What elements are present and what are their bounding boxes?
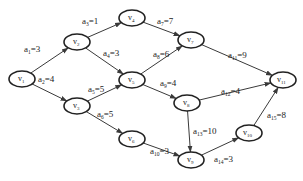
edge-v7-v11: a11=9 — [202, 45, 273, 76]
edge-label: a2=4 — [38, 74, 55, 85]
node-v9: v9 — [178, 152, 204, 168]
edge-label: a5=5 — [88, 84, 105, 95]
node-v7: v7 — [178, 32, 204, 48]
edge-label: a8=6 — [153, 49, 170, 60]
node-v6: v6 — [119, 131, 145, 147]
edge-arrow — [32, 84, 67, 101]
node-v1: v1 — [9, 71, 35, 87]
edge-v6-v9: a10=3 — [143, 143, 179, 157]
edge-v5-v7: a8=6 — [141, 46, 183, 74]
edge-label: a1=3 — [24, 44, 41, 55]
node-v8: v8 — [174, 95, 200, 111]
edge-v2-v4: a3=1 — [82, 16, 121, 37]
edge-v5-v8: a9=4 — [143, 78, 177, 99]
aoe-network-diagram: a1=3a2=4a3=1a4=3a5=5a6=5a7=7a8=6a9=4a10=… — [0, 0, 303, 181]
edge-v2-v5: a4=3 — [86, 48, 124, 74]
edges-layer: a1=3a2=4a3=1a4=3a5=5a6=5a7=7a8=6a9=4a10=… — [24, 16, 287, 165]
edge-v3-v6: a6=5 — [86, 109, 122, 133]
edge-v4-v7: a7=7 — [143, 16, 180, 36]
edge-arrow — [201, 138, 238, 155]
edge-label: a9=4 — [160, 78, 177, 89]
edge-label: a11=9 — [228, 50, 247, 61]
edge-arrow — [188, 111, 191, 152]
node-v11: v11 — [270, 72, 296, 88]
edge-label: a14=3 — [214, 154, 234, 165]
edge-v10-v11: a15=8 — [254, 87, 287, 125]
edge-v8-v11: a12=4 — [199, 83, 271, 100]
edge-v1-v3: a2=4 — [32, 74, 67, 101]
edge-label: a13=10 — [193, 126, 217, 137]
edge-label: a7=7 — [157, 16, 174, 27]
node-v3: v3 — [64, 98, 90, 114]
node-v2: v2 — [64, 34, 90, 50]
edge-label: a10=3 — [150, 146, 170, 157]
edge-v3-v5: a5=5 — [87, 84, 121, 101]
edge-label: a3=1 — [82, 16, 98, 27]
edge-label: a6=5 — [97, 109, 114, 120]
edge-label: a12=4 — [221, 86, 241, 97]
edge-v8-v9: a13=10 — [188, 111, 218, 152]
edge-label: a4=3 — [103, 48, 120, 59]
node-v5: v5 — [119, 72, 145, 88]
edge-v1-v2: a1=3 — [24, 44, 68, 73]
node-v10: v10 — [236, 125, 262, 141]
edge-v9-v10: a14=3 — [201, 138, 238, 165]
node-v4: v4 — [119, 10, 145, 26]
edge-label: a15=8 — [267, 110, 287, 121]
